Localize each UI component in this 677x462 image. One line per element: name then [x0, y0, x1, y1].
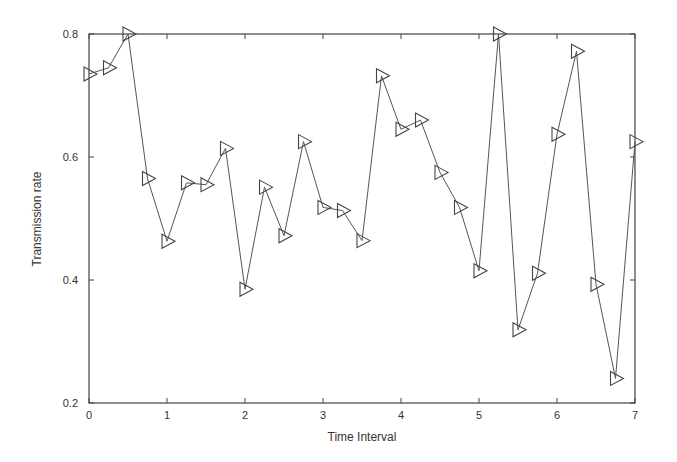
- y-tick-label: 0.6: [63, 151, 78, 163]
- y-axis-ticks: 0.20.40.60.8: [63, 28, 635, 409]
- x-tick-label: 4: [398, 409, 404, 421]
- x-tick-label: 7: [632, 409, 638, 421]
- plot-border: [89, 34, 635, 403]
- y-tick-label: 0.2: [63, 397, 78, 409]
- x-axis-label: Time Interval: [328, 430, 397, 444]
- plot-frame: [89, 34, 635, 403]
- line-chart: 01234567 0.20.40.60.8 Time Interval Tran…: [0, 0, 677, 462]
- y-axis-label: Transmission rate: [30, 171, 44, 266]
- y-tick-label: 0.8: [63, 28, 78, 40]
- data-point-marker: [104, 61, 117, 75]
- data-point-marker: [474, 264, 487, 278]
- x-tick-label: 0: [86, 409, 92, 421]
- data-markers: [84, 27, 643, 385]
- data-point-marker: [630, 135, 643, 149]
- data-point-marker: [240, 282, 253, 296]
- x-tick-label: 6: [554, 409, 560, 421]
- x-tick-label: 2: [242, 409, 248, 421]
- x-tick-label: 3: [320, 409, 326, 421]
- y-tick-label: 0.4: [63, 274, 78, 286]
- data-point-marker: [396, 122, 409, 136]
- data-point-marker: [572, 44, 585, 58]
- x-axis-ticks: 01234567: [86, 34, 638, 421]
- x-tick-label: 5: [476, 409, 482, 421]
- x-tick-label: 1: [164, 409, 170, 421]
- data-point-marker: [435, 165, 448, 179]
- data-point-marker: [533, 266, 546, 280]
- series-polyline: [89, 34, 635, 378]
- series-line: [89, 34, 635, 378]
- data-point-marker: [611, 371, 624, 385]
